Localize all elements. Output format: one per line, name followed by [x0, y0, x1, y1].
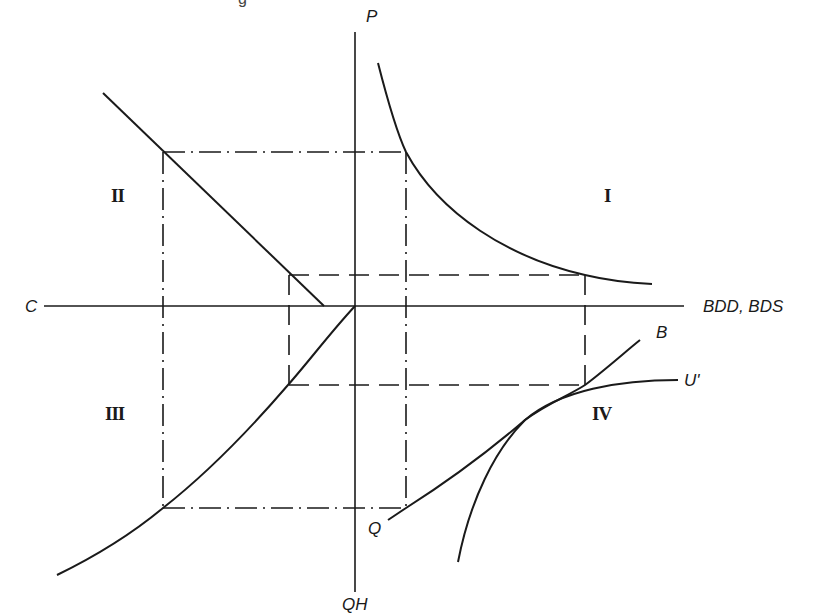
- quadrant-label-3: III: [105, 404, 124, 423]
- axis-label-qh: QH: [342, 596, 368, 613]
- axis-label-p: P: [366, 8, 377, 25]
- quadrant-2-line: [103, 93, 324, 306]
- quadrant-label-2: II: [111, 186, 124, 205]
- curve-label-b: B: [656, 324, 667, 341]
- four-quadrant-diagram: [0, 0, 824, 615]
- dash-dot-guide-rectangle: [163, 152, 406, 508]
- u-prime-curve: [458, 380, 678, 562]
- curve-label-u-prime: U': [684, 372, 700, 389]
- quadrant-3-curve: [57, 306, 355, 575]
- quadrant-label-1: I: [604, 186, 610, 205]
- axis-label-c: C: [25, 298, 37, 315]
- b-curve: [388, 340, 640, 520]
- point-label-q: Q: [368, 520, 381, 537]
- axis-label-bdd-bds: BDD, BDS: [703, 298, 783, 315]
- quadrant-label-4: IV: [592, 404, 611, 423]
- quadrant-1-curve: [378, 63, 652, 284]
